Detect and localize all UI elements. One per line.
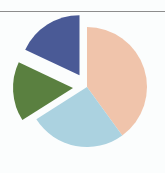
pie-chart-canvas [0, 0, 165, 173]
pie-slices-group [13, 15, 147, 147]
pie-chart-figure [0, 0, 165, 173]
pie-slice [25, 15, 79, 75]
